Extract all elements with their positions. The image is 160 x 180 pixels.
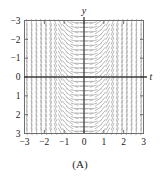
y-tick-label: −3	[10, 16, 20, 26]
x-tick-label: 1	[101, 137, 106, 147]
x-tick-label: −2	[39, 137, 49, 147]
y-axis-label: y	[81, 5, 87, 16]
x-tick-label: 3	[141, 137, 146, 147]
figure-caption: (A)	[0, 158, 160, 170]
x-tick-label: −3	[19, 137, 29, 147]
y-tick-label: 1	[16, 91, 21, 101]
x-tick-label: −1	[59, 137, 69, 147]
y-tick-label: −1	[10, 53, 20, 63]
y-tick-label: 0	[16, 72, 21, 82]
slope-field-plot: −3−2−101233210−1−2−3 y t	[0, 0, 160, 180]
y-tick-label: 3	[16, 129, 21, 139]
y-tick-label: 2	[16, 110, 21, 120]
y-tick-label: −2	[10, 35, 20, 45]
x-tick-label: 2	[121, 137, 126, 147]
t-axis-label: t	[150, 71, 153, 82]
slope-field-figure: −3−2−101233210−1−2−3 y t (A)	[0, 0, 160, 180]
x-tick-label: 0	[82, 137, 87, 147]
